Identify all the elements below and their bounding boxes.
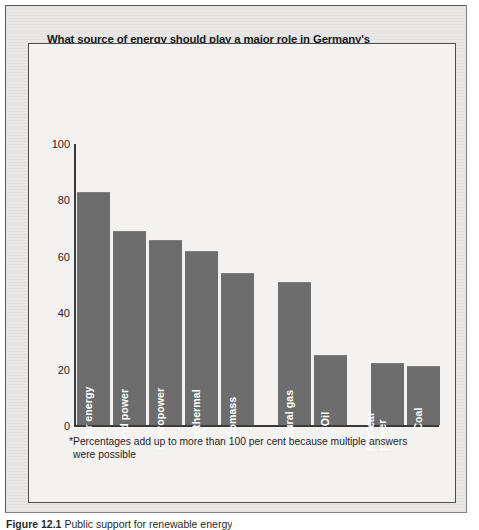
y-tick-label: 40 — [31, 307, 70, 319]
bar-hydropower[interactable]: Hydropower — [149, 240, 182, 425]
chart-panel: 100 80 60 40 20 0 Solar energy — [28, 43, 456, 503]
bar-natural-gas[interactable]: Natural gas — [278, 282, 311, 425]
bar-coal[interactable]: Coal — [407, 366, 440, 425]
figure-caption: Figure 12.1 Public support for renewable… — [6, 518, 232, 530]
y-tick-label: 60 — [31, 251, 70, 263]
bar-nuclear-power[interactable]: Nuclear power — [371, 363, 404, 425]
bar-solar-energy[interactable]: Solar energy — [77, 192, 110, 425]
y-tick-label: 100 — [31, 138, 70, 150]
bar-biomass[interactable]: Biomass — [221, 273, 254, 425]
y-tick-label: 20 — [31, 364, 70, 376]
bar-label: Biomass — [226, 397, 238, 441]
figure-outer-frame: What source of energy should play a majo… — [5, 5, 467, 513]
bars-layer: Solar energy Wind power Hydropower Geoth… — [76, 144, 439, 425]
plot-area: 100 80 60 40 20 0 Solar energy — [29, 44, 455, 502]
footnote-line-1: *Percentages add up to more than 100 per… — [69, 436, 407, 447]
bar-label: Coal — [412, 407, 424, 430]
bar-oil[interactable]: Oil — [314, 355, 347, 425]
y-tick-label: 80 — [31, 194, 70, 206]
y-tick-label: 0 — [31, 420, 70, 432]
chart-footnote: *Percentages add up to more than 100 per… — [69, 436, 437, 461]
bar-label: Oil — [319, 412, 331, 426]
bar-wind-power[interactable]: Wind power — [113, 231, 146, 425]
bar-geothermal[interactable]: Geothermal — [185, 251, 218, 425]
figure-caption-label: Figure 12.1 — [6, 518, 61, 530]
footnote-line-2: were possible — [69, 449, 437, 462]
figure-caption-text: Public support for renewable energy — [64, 518, 232, 530]
